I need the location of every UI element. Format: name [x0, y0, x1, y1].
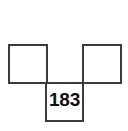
square-cell-bottom-center-label: 183	[49, 89, 80, 110]
square-cell-top-right[interactable]	[83, 45, 121, 83]
square-cell-top-left[interactable]	[9, 45, 47, 83]
figure-canvas: 183	[0, 0, 128, 131]
square-grid-diagram: 183	[0, 0, 128, 131]
